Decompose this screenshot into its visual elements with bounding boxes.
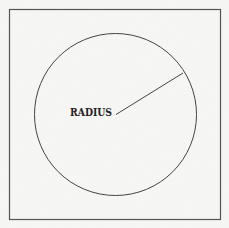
radius-diagram: RADIUS — [0, 0, 229, 228]
diagram-canvas: RADIUS — [0, 0, 229, 228]
radius-label: RADIUS — [70, 106, 112, 119]
